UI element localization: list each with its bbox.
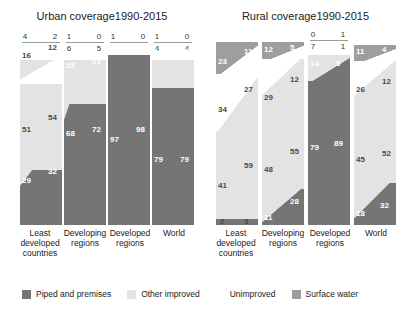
rural-g2-unimproved-1990: 29: [264, 94, 273, 102]
urban-g4-seg-other-improved: [152, 60, 194, 88]
urban-g1-piped-2015: 32: [48, 168, 57, 176]
rural-g4-surface-1990: 11: [356, 48, 364, 56]
rural-g2-surface-1990: 12: [264, 46, 273, 54]
rural-g1-piped-1990: 2: [220, 218, 224, 226]
legend-label-other-improved: Other improved: [141, 289, 200, 299]
urban-g1-piped-1990: 29: [22, 177, 31, 185]
urban-g2-top-rule: [66, 42, 104, 43]
urban-g1-unimproved-2015: 12: [48, 44, 57, 52]
legend-swatch-surface-water-icon: [292, 290, 301, 299]
urban-g3-piped-2015: 98: [136, 126, 145, 134]
rural-g2-piped-1990: 11: [264, 214, 272, 222]
rural-g1-unimproved-slope: [216, 74, 258, 131]
rural-g3-bar: [308, 55, 350, 225]
urban-g4-piped-1990: 79: [154, 156, 163, 164]
urban-g2-surface-2015: 0: [92, 32, 106, 41]
rural-g1-surface-2015: 11: [244, 48, 252, 56]
rural-g3-surface-2015: 1: [336, 30, 350, 39]
rural-g2-seg-other-improved: [262, 99, 304, 189]
rural-g1-surface-1990: 23: [218, 58, 227, 66]
urban-g3-top-rule: [110, 42, 148, 43]
urban-g4-top-rule: [154, 42, 192, 43]
urban-g4-surface-1990: 1: [150, 32, 164, 41]
rural-g1-unimproved-1990: 34: [218, 106, 227, 114]
legend-swatch-other-improved-icon: [127, 290, 136, 299]
urban-g3-surface-1990: 1: [106, 32, 120, 41]
urban-g2-unimproved-1990: 6: [62, 44, 76, 53]
rural-g1-piped-2015: 3: [244, 218, 248, 226]
legend-label-piped: Piped and premises: [36, 289, 111, 299]
rural-chart-title: Rural coverage1990-2015: [204, 10, 407, 22]
urban-g1-surface-1990: 4: [18, 32, 32, 41]
urban-g2-piped-slope: [64, 104, 106, 225]
rural-g2-piped-2015: 28: [290, 198, 299, 206]
rural-g4-unimproved-1990: 26: [356, 86, 365, 94]
urban-group-world: 1 0 4 4 16 17 79 79: [150, 30, 196, 225]
rural-g4-other-1990: 45: [356, 156, 365, 164]
rural-g4-unimproved-2015: 12: [382, 78, 391, 86]
rural-group-world: 11 4 26 12 45 52 18 32: [352, 30, 398, 225]
rural-g4-bar: [354, 45, 396, 225]
rural-g4-piped-1990: 18: [356, 210, 365, 218]
legend-swatch-piped-icon: [22, 290, 31, 299]
legend-label-unimproved: Unimproved: [230, 289, 276, 299]
rural-g4-seg-piped: [354, 183, 396, 225]
urban-g1-unimproved-1990: 16: [22, 52, 31, 60]
rural-g3-other-1990: 14: [310, 60, 319, 68]
urban-x-axis-labels: Least developed countries Developing reg…: [0, 228, 204, 272]
rural-g1-other-1990: 41: [218, 182, 227, 190]
rural-g3-piped-1990: 79: [310, 144, 319, 152]
rural-group-developed: 0 1 7 1 14 9 79 89: [306, 30, 352, 225]
legend-item-piped: Piped and premises: [22, 289, 111, 299]
panel-urban: Urban coverage1990-2015 4 2 16: [0, 0, 204, 272]
rural-g1-bar: [216, 42, 258, 225]
rural-x-axis-labels: Least developed countries Developing reg…: [204, 228, 407, 272]
urban-g2-other-2015: 23: [92, 58, 101, 66]
legend-label-surface-water: Surface water: [306, 289, 358, 299]
urban-g3-piped-1990: 97: [110, 136, 119, 144]
chart-legend: Piped and premises Other improved Unimpr…: [0, 282, 407, 306]
urban-g2-seg-piped: [64, 104, 106, 225]
urban-g4-surface-2015: 0: [180, 32, 194, 41]
rural-g1-unimproved-2015: 27: [244, 86, 253, 94]
rural-g3-piped-2015: 89: [334, 140, 343, 148]
rural-g1-other-2015: 59: [244, 162, 253, 170]
urban-g3-unimproved-2015: 2: [136, 44, 150, 53]
panel-rural: Rural coverage1990-2015 23 11 34 27: [204, 0, 407, 272]
urban-xlabel-world: World: [148, 228, 200, 238]
urban-g1-other-2015: 54: [48, 114, 57, 122]
urban-g4-bar: [152, 60, 194, 225]
rural-g1-seg-unimproved: [216, 74, 258, 131]
legend-item-unimproved: Unimproved: [216, 289, 276, 299]
rural-g2-other-1990: 48: [264, 166, 273, 174]
urban-chart-title: Urban coverage1990-2015: [0, 10, 204, 22]
urban-g4-piped-2015: 79: [180, 156, 189, 164]
rural-g4-seg-other-improved: [354, 97, 396, 183]
rural-g4-other-2015: 52: [382, 150, 391, 158]
urban-g2-other-1990: 25: [66, 62, 75, 70]
legend-item-other-improved: Other improved: [127, 289, 200, 299]
urban-plot-area: 4 2 16 12 51 54 29 32: [0, 30, 204, 225]
rural-g3-unimproved-1990: 7: [306, 42, 320, 51]
rural-group-developing: 12 5 29 12 48 55 11 28: [260, 30, 306, 225]
urban-g2-piped-2015: 72: [92, 126, 101, 134]
rural-g3-seg-piped: [308, 81, 350, 225]
urban-g1-unimproved-slope: [20, 60, 62, 84]
rural-xlabel-world: World: [350, 228, 402, 238]
urban-group-least-developed: 4 2 16 12 51 54 29 32: [18, 30, 64, 225]
urban-group-developed: 1 0 2 2 97 98: [106, 30, 152, 225]
urban-g2-surface-1990: 1: [62, 32, 76, 41]
urban-g1-seg-unimproved: [20, 60, 62, 84]
urban-g4-other-2015: 17: [180, 48, 189, 56]
rural-g3-unimproved-2015: 1: [336, 42, 350, 51]
urban-g1-surface-2015: 2: [48, 32, 62, 41]
legend-item-surface-water: Surface water: [292, 289, 358, 299]
urban-group-developing: 1 0 6 5 25 23 68 72: [62, 30, 108, 225]
legend-swatch-unimproved-icon: [216, 290, 225, 299]
rural-g4-surface-2015: 4: [382, 46, 386, 54]
rural-g4-piped-2015: 32: [380, 202, 389, 210]
rural-group-least-developed: 23 11 34 27 41 59 2 3: [214, 30, 260, 225]
rural-g3-other-2015: 9: [336, 60, 340, 68]
rural-g3-surface-1990: 0: [306, 30, 320, 39]
urban-g1-other-1990: 51: [22, 126, 31, 134]
